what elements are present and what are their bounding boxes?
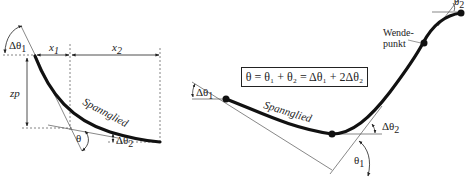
inflection-point <box>421 40 428 47</box>
tendon-label: Spannglied <box>262 98 313 124</box>
low-point <box>329 131 336 138</box>
zp-label: zp <box>9 87 20 99</box>
start-point <box>223 96 230 103</box>
inflection-label-line2: punkt <box>383 38 406 49</box>
delta-theta-2-label: Δθ2 <box>382 120 399 135</box>
end-point <box>458 10 465 17</box>
delta-theta-2-arc <box>372 124 375 133</box>
formula-box: θ = θ₁ + θ₂ = Δθ₁ + 2Δθ₂ <box>241 67 368 87</box>
theta-1-label: θ1 <box>354 154 364 169</box>
delta-theta-1-label: Δθ1 <box>9 39 26 54</box>
theta-2-label: θ2 <box>454 0 464 10</box>
x2-label: x2 <box>111 41 122 56</box>
theta-arc <box>82 131 88 151</box>
tendon-geometry-diagram: Δθ1 x1 x2 zp Spannglied θ Δθ2 Δθ1 <box>0 0 470 184</box>
delta-theta-1-arc <box>193 84 195 97</box>
x1-label: x1 <box>48 41 59 56</box>
theta-label: θ <box>76 132 81 144</box>
formula-text: θ = θ₁ + θ₂ = Δθ₁ + 2Δθ₂ <box>246 70 363 85</box>
left-figure: Δθ1 x1 x2 zp Spannglied θ Δθ2 <box>3 26 160 151</box>
right-figure: Δθ1 Spannglied Δθ2 θ1 θ2 Wende- punkt <box>192 0 465 176</box>
inflection-label-line1: Wende- <box>383 27 414 38</box>
tendon-curve <box>35 56 160 142</box>
inflection-leader-line <box>408 40 421 43</box>
